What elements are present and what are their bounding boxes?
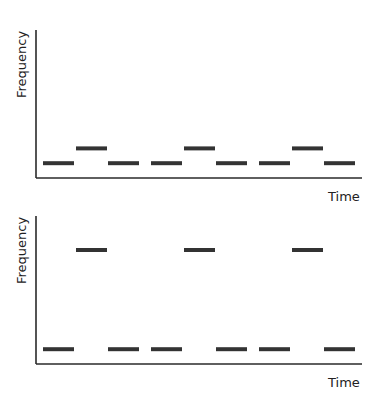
y-axis-label: Frequency	[14, 31, 29, 98]
segments	[43, 148, 355, 163]
figure: Frequency Time Frequency Time	[0, 0, 381, 407]
x-axis-label: Time	[327, 189, 360, 204]
y-axis-label: Frequency	[14, 217, 29, 284]
segments	[43, 250, 355, 349]
panel-top: Frequency Time	[14, 30, 362, 204]
panel-bottom: Frequency Time	[14, 216, 362, 390]
x-axis-label: Time	[327, 375, 360, 390]
